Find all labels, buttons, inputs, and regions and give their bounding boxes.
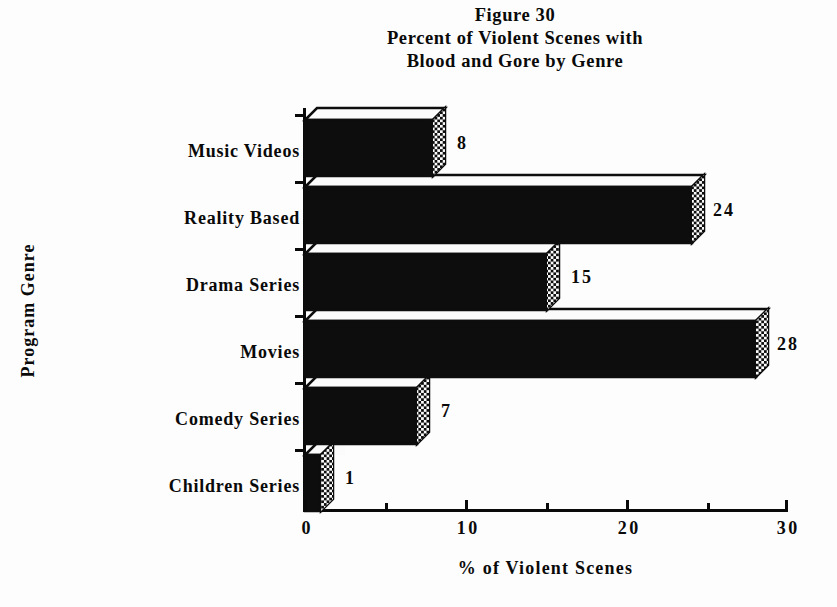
- bar-value-reality-based: 24: [713, 200, 735, 221]
- y-category-label-children-series: Children Series: [40, 476, 300, 497]
- x-axis-tick-label-30: 30: [757, 518, 817, 539]
- plot-area: Program Genre % of Violent Scenes Music …: [0, 0, 837, 607]
- figure-canvas: Figure 30 Percent of Violent Scenes with…: [0, 0, 837, 607]
- x-axis-tick-label-10: 10: [437, 518, 497, 539]
- y-category-label-music-videos: Music Videos: [40, 141, 300, 162]
- y-axis-tick: [295, 315, 305, 318]
- y-category-label-reality-based: Reality Based: [40, 208, 300, 229]
- x-axis-title: % of Violent Scenes: [303, 558, 788, 579]
- x-axis-tick-20: [626, 500, 629, 512]
- bar-value-children-series: 1: [345, 468, 356, 489]
- bar-value-comedy-series: 7: [441, 401, 452, 422]
- x-axis-tick-15: [546, 503, 549, 512]
- x-axis-tick-label-20: 20: [598, 518, 658, 539]
- y-axis-tick: [295, 449, 305, 452]
- x-axis-tick-0: [304, 500, 307, 512]
- y-axis-tick: [295, 114, 305, 117]
- bar-value-movies: 28: [777, 334, 799, 355]
- x-axis-tick-30: [785, 500, 788, 512]
- y-axis-title: Program Genre: [18, 231, 39, 391]
- x-axis-tick-label-0: 0: [276, 518, 336, 539]
- y-axis-tick: [295, 248, 305, 251]
- y-category-label-movies: Movies: [40, 342, 300, 363]
- y-axis-tick: [295, 181, 305, 184]
- x-axis-tick-25: [707, 503, 710, 512]
- y-category-label-comedy-series: Comedy Series: [40, 409, 300, 430]
- bar-value-drama-series: 15: [571, 267, 593, 288]
- y-category-label-drama-series: Drama Series: [40, 275, 300, 296]
- x-axis-tick-10: [465, 500, 468, 512]
- y-axis-tick: [295, 382, 305, 385]
- x-axis-tick-5: [385, 503, 388, 512]
- bar-value-music-videos: 8: [457, 133, 468, 154]
